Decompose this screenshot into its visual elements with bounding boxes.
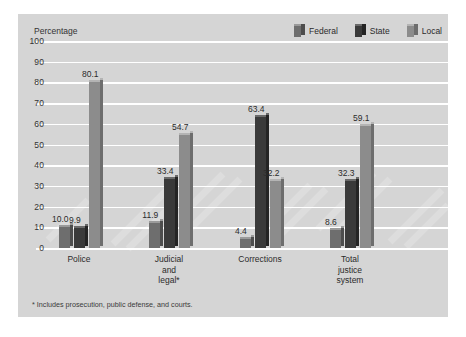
chart-panel: Percentage 100 90 80 70 60 50 40 30 20 1…	[18, 14, 448, 317]
y-tick-10: 10	[18, 222, 44, 232]
bar-value-police-local: 80.1	[82, 69, 99, 79]
legend-label-state: State	[370, 26, 390, 36]
y-tick-40: 40	[18, 160, 44, 170]
plot-area: Percentage 100 90 80 70 60 50 40 30 20 1…	[18, 14, 448, 317]
y-tick-80: 80	[18, 77, 44, 87]
bar-value-corrections-local: 32.2	[263, 168, 280, 178]
bar-value-corrections-federal: 4.4	[235, 226, 247, 236]
legend-label-federal: Federal	[309, 26, 338, 36]
y-tick-30: 30	[18, 181, 44, 191]
legend-swatch-state-icon	[355, 24, 366, 37]
x-label-judicial-line-3: legal*	[124, 275, 214, 286]
x-label-police: Police	[34, 254, 124, 265]
y-tick-70: 70	[18, 98, 44, 108]
legend-item-federal[interactable]: Federal	[294, 24, 338, 37]
bar-value-judicial-local: 54.7	[172, 122, 189, 132]
chart-figure: Percentage 100 90 80 70 60 50 40 30 20 1…	[0, 0, 466, 337]
y-tick-50: 50	[18, 140, 44, 150]
x-label-judicial-line-2: and	[124, 265, 214, 276]
gridline-90	[36, 62, 448, 64]
x-label-total: Total justice system	[305, 254, 395, 286]
x-label-total-line-2: justice	[305, 265, 395, 276]
legend: Federal State Local	[294, 24, 442, 37]
legend-item-state[interactable]: State	[355, 24, 390, 37]
x-label-corrections: Corrections	[215, 254, 305, 265]
bar-value-judicial-federal: 11.9	[142, 210, 158, 220]
bar-value-total-state: 32.3	[338, 168, 355, 178]
x-label-police-line-1: Police	[34, 254, 124, 265]
y-axis-title: Percentage	[34, 26, 77, 36]
footnote: * Includes prosecution, public defense, …	[32, 300, 193, 309]
bar-value-total-local: 59.1	[353, 113, 370, 123]
legend-item-local[interactable]: Local	[407, 24, 442, 37]
bar-value-corrections-state: 63.4	[248, 104, 265, 114]
legend-label-local: Local	[422, 26, 442, 36]
x-label-corrections-line-1: Corrections	[215, 254, 305, 265]
gridline-100	[36, 41, 448, 43]
y-tick-100: 100	[18, 36, 44, 46]
y-tick-60: 60	[18, 119, 44, 129]
y-tick-0: 0	[18, 243, 44, 253]
x-label-judicial: Judicial and legal*	[124, 254, 214, 286]
x-label-total-line-3: system	[305, 275, 395, 286]
bar-value-police-state: 9.9	[69, 215, 81, 225]
x-label-judicial-line-1: Judicial	[124, 254, 214, 265]
bar-value-total-federal: 8.6	[325, 217, 337, 227]
x-label-total-line-1: Total	[305, 254, 395, 265]
bar-value-police-federal: 10.0	[52, 214, 69, 224]
y-tick-90: 90	[18, 57, 44, 67]
y-tick-20: 20	[18, 202, 44, 212]
gridline-0-baseline	[36, 248, 448, 250]
legend-swatch-local-icon	[407, 24, 418, 37]
bar-value-judicial-state: 33.4	[157, 166, 174, 176]
legend-swatch-federal-icon	[294, 24, 305, 37]
